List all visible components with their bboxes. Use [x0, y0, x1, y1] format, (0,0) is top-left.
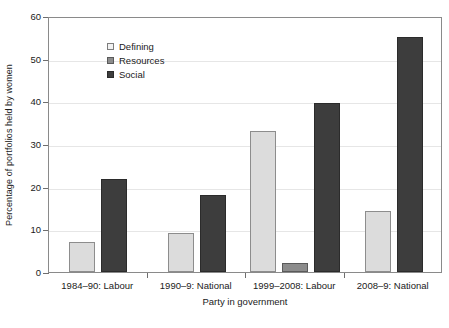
bar-defining: [69, 242, 95, 272]
legend-label: Defining: [119, 41, 154, 52]
chart-legend: DefiningResourcesSocial: [107, 40, 164, 81]
x-axis-tick-mark: [245, 273, 246, 278]
bar-social: [314, 103, 340, 272]
x-axis-title-text: Party in government: [202, 296, 287, 307]
y-axis-tick-label: 60: [30, 12, 41, 22]
legend-swatch-icon: [107, 43, 114, 50]
bar-group: [246, 18, 345, 272]
y-axis-tick-label: 30: [30, 140, 41, 150]
y-axis-tick-label: 40: [30, 97, 41, 107]
y-axis-tick-label: 20: [30, 183, 41, 193]
y-axis-title: Percentage of portfolios held by women: [0, 0, 18, 290]
legend-item: Resources: [107, 54, 164, 67]
x-axis-tick-mark: [147, 273, 148, 278]
legend-item: Defining: [107, 40, 164, 53]
x-axis-category-label: 1999–2008: Labour: [253, 279, 335, 292]
bar-social: [200, 195, 226, 272]
legend-item: Social: [107, 68, 164, 81]
x-axis-tick-mark: [344, 273, 345, 278]
legend-label: Resources: [119, 55, 164, 66]
x-axis-category-labels: 1984–90: Labour1990–9: National1999–2008…: [48, 279, 442, 293]
bar-group: [345, 18, 444, 272]
legend-swatch-icon: [107, 71, 114, 78]
bar-social: [397, 37, 423, 272]
legend-label: Social: [119, 69, 145, 80]
bar-defining: [168, 233, 194, 272]
y-axis-tick-labels: 0102030405060: [18, 0, 44, 290]
bar-defining: [250, 131, 276, 272]
plot-area: DefiningResourcesSocial: [48, 17, 442, 273]
y-axis-tick-label: 0: [36, 268, 41, 278]
bar-social: [101, 179, 127, 272]
bar-chart-figure: Percentage of portfolios held by women 0…: [0, 0, 449, 328]
y-axis-tick-label: 10: [30, 225, 41, 235]
x-axis-category-label: 1984–90: Labour: [61, 279, 133, 292]
y-axis-title-text: Percentage of portfolios held by women: [4, 64, 14, 226]
x-axis-category-label: 2008–9: National: [357, 279, 429, 292]
bar-defining: [365, 211, 391, 272]
bar-resources: [282, 263, 308, 272]
y-axis-tick-label: 50: [30, 55, 41, 65]
x-axis-title: Party in government: [48, 296, 442, 307]
x-axis-category-label: 1990–9: National: [160, 279, 232, 292]
legend-swatch-icon: [107, 57, 114, 64]
